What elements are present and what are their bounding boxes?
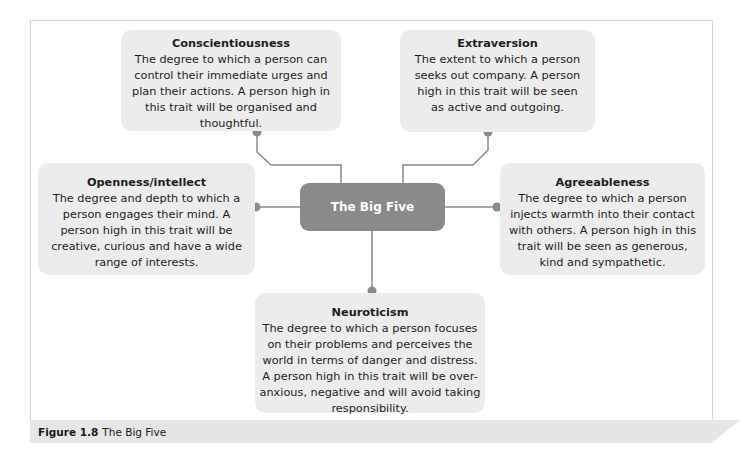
trait-title: Extraversion <box>400 36 595 52</box>
trait-description: The degree and depth to which a person e… <box>38 191 255 271</box>
trait-description: The degree to which a person can control… <box>121 52 341 132</box>
trait-card-openness: Openness/intellect The degree and depth … <box>38 163 255 275</box>
trait-card-extraversion: Extraversion The extent to which a perso… <box>400 30 595 132</box>
center-node: The Big Five <box>300 183 445 231</box>
trait-description: The extent to which a person seeks out c… <box>400 52 595 116</box>
trait-title: Agreeableness <box>500 175 705 191</box>
trait-card-agreeableness: Agreeableness The degree to which a pers… <box>500 163 705 275</box>
trait-card-conscientiousness: Conscientiousness The degree to which a … <box>121 30 341 131</box>
trait-card-neuroticism: Neuroticism The degree to which a person… <box>255 293 485 413</box>
caption-text: The Big Five <box>102 426 166 438</box>
figure-caption: Figure 1.8 The Big Five <box>30 420 740 443</box>
trait-title: Neuroticism <box>255 305 485 321</box>
trait-description: The degree to which a person focuses on … <box>255 321 485 417</box>
trait-title: Openness/intellect <box>38 175 255 191</box>
center-label: The Big Five <box>331 200 414 214</box>
trait-title: Conscientiousness <box>121 36 341 52</box>
caption-label: Figure 1.8 <box>38 426 98 438</box>
trait-description: The degree to which a person injects war… <box>500 191 705 271</box>
